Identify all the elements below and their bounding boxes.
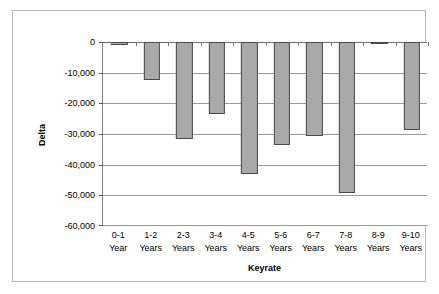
bar-slot xyxy=(298,42,331,226)
bar-slot xyxy=(266,42,299,226)
chart-frame: Delta 0-10,000-20,000-30,000-40,000-50,0… xyxy=(12,10,426,282)
x-axis-tick-labels: 0-1Year1-2Years2-3Years3-4Years4-5Years5… xyxy=(102,229,427,259)
x-axis-title: Keyrate xyxy=(102,263,427,273)
bar-slot xyxy=(363,42,396,226)
x-axis-tick-label-line: Years xyxy=(135,242,168,255)
x-axis-tick-label-line: 6-7 xyxy=(297,229,330,242)
x-axis-tick-label-line: Years xyxy=(330,242,363,255)
x-axis-tick-label: 7-8Years xyxy=(330,229,363,255)
x-axis-tick-label-line: 1-2 xyxy=(135,229,168,242)
x-axis-tick-label: 3-4Years xyxy=(200,229,233,255)
x-axis-tick-label: 5-6Years xyxy=(265,229,298,255)
y-axis-tick-label: -20,000 xyxy=(64,99,95,108)
x-axis-tick-label-line: 3-4 xyxy=(200,229,233,242)
x-axis-tick-label-line: Years xyxy=(362,242,395,255)
bar-slot xyxy=(233,42,266,226)
bar[interactable] xyxy=(111,42,127,45)
bar-series xyxy=(103,42,427,226)
bar[interactable] xyxy=(404,42,420,130)
x-axis-tick-label-line: 7-8 xyxy=(330,229,363,242)
x-axis-tick-label-line: 5-6 xyxy=(265,229,298,242)
x-axis-tick-label: 8-9Years xyxy=(362,229,395,255)
x-axis-tick-label-line: Years xyxy=(200,242,233,255)
y-axis-tick-labels: 0-10,000-20,000-30,000-40,000-50,000-60,… xyxy=(47,42,99,226)
x-axis-tick-label: 1-2Years xyxy=(135,229,168,255)
bar[interactable] xyxy=(144,42,160,80)
bar[interactable] xyxy=(371,42,387,44)
x-axis-tick-label-line: 0-1 xyxy=(102,229,135,242)
bar[interactable] xyxy=(176,42,192,139)
x-axis-tick-label-line: 8-9 xyxy=(362,229,395,242)
x-axis-tick-mark xyxy=(428,42,429,46)
x-axis-tick-label-line: Years xyxy=(232,242,265,255)
y-axis-tick-label: -50,000 xyxy=(64,191,95,200)
x-axis-tick-label: 0-1Year xyxy=(102,229,135,255)
y-axis-tick-label: -60,000 xyxy=(64,222,95,231)
x-axis-tick-label-line: 4-5 xyxy=(232,229,265,242)
x-axis-tick-label-line: 2-3 xyxy=(167,229,200,242)
bar-slot xyxy=(331,42,364,226)
x-axis-tick-label-line: Years xyxy=(167,242,200,255)
bar[interactable] xyxy=(241,42,257,174)
bar[interactable] xyxy=(209,42,225,114)
x-axis-tick-label-line: Years xyxy=(265,242,298,255)
bar-slot xyxy=(168,42,201,226)
bar-slot xyxy=(396,42,429,226)
bar-slot xyxy=(103,42,136,226)
x-axis-tick-label-line: Years xyxy=(395,242,428,255)
bar[interactable] xyxy=(306,42,322,136)
y-axis-tick-label: 0 xyxy=(90,38,95,47)
x-axis-tick-label: 2-3Years xyxy=(167,229,200,255)
x-axis-tick-label-line: Years xyxy=(297,242,330,255)
y-axis-tick-label: -30,000 xyxy=(64,130,95,139)
x-axis-tick-label-line: Year xyxy=(102,242,135,255)
bar[interactable] xyxy=(339,42,355,193)
x-axis-tick-label: 4-5Years xyxy=(232,229,265,255)
chart-screenshot: Delta 0-10,000-20,000-30,000-40,000-50,0… xyxy=(0,0,439,294)
bar[interactable] xyxy=(274,42,290,145)
y-axis-tick-label: -40,000 xyxy=(64,160,95,169)
plot-area xyxy=(102,42,427,226)
bar-slot xyxy=(136,42,169,226)
bar-slot xyxy=(201,42,234,226)
x-axis-tick-label: 9-10Years xyxy=(395,229,428,255)
y-axis-tick-label: -10,000 xyxy=(64,68,95,77)
x-axis-tick-label: 6-7Years xyxy=(297,229,330,255)
x-axis-tick-label-line: 9-10 xyxy=(395,229,428,242)
